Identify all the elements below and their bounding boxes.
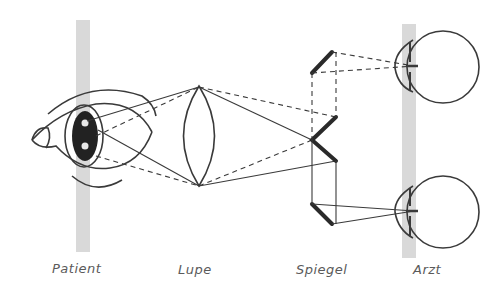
retina-point-lower — [82, 143, 89, 150]
mirror-center-v — [312, 117, 336, 161]
rays-eye-to-lens — [87, 87, 199, 186]
lens-icon — [184, 86, 215, 186]
mirror-bottom — [312, 204, 332, 224]
label-patient: Patient — [52, 261, 101, 276]
mirror-system — [312, 52, 336, 224]
label-arzt: Arzt — [413, 262, 441, 277]
label-lupe: Lupe — [178, 262, 212, 277]
label-spiegel: Spiegel — [296, 262, 347, 277]
ophthalmoscope-optics-diagram — [0, 0, 504, 301]
mirror-top — [312, 52, 332, 73]
